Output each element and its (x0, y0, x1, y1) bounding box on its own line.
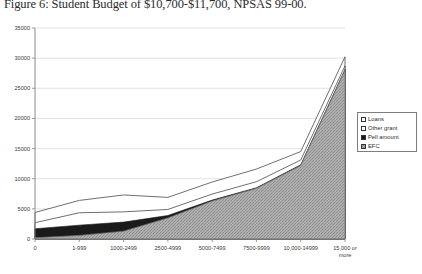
legend-item-other-grant[interactable]: Other grant (361, 124, 414, 133)
page-title: Figure 6: Student Budget of $10,700-$11,… (4, 0, 418, 12)
legend-item-loans[interactable]: Loans (361, 115, 414, 124)
y-tick-label: 25000 (14, 85, 30, 91)
x-tick-label: 1000-2499 (110, 245, 137, 251)
x-tick-label-last-line1: 15,000 or (333, 245, 357, 251)
legend-swatch-pell-amount-icon (361, 135, 366, 140)
legend-label-other-grant: Other grant (368, 125, 397, 132)
legend-label-loans: Loans (368, 116, 384, 123)
x-tick-label: 7500-9999 (243, 245, 270, 251)
y-tick-label: 10000 (14, 176, 30, 182)
legend-swatch-efc-icon (361, 144, 366, 149)
y-tick-label: 30000 (14, 55, 30, 61)
legend-swatch-other-grant-icon (361, 126, 366, 131)
x-tick-label: 5000-7499 (199, 245, 226, 251)
y-tick-label: 35000 (14, 25, 30, 31)
x-tick-label: 2500-4999 (154, 245, 181, 251)
y-tick-label: 5000 (18, 206, 30, 212)
x-tick-label-last-line2: more (339, 252, 352, 258)
legend-item-efc[interactable]: EFC (361, 142, 414, 151)
legend-swatch-loans-icon (361, 117, 366, 122)
chart-legend: Loans Other grant Pell amount EFC (357, 112, 417, 152)
legend-item-pell-amount[interactable]: Pell amount (361, 133, 414, 142)
x-tick-label: 0 (33, 245, 36, 251)
y-tick-label: 15000 (14, 146, 30, 152)
x-tick-label: 1-999 (72, 245, 86, 251)
legend-label-pell-amount: Pell amount (368, 134, 399, 141)
legend-label-efc: EFC (368, 143, 380, 150)
y-tick-label: 0 (27, 236, 30, 242)
x-tick-label: 10,000-14999 (283, 245, 318, 251)
y-tick-label: 20000 (14, 115, 30, 121)
